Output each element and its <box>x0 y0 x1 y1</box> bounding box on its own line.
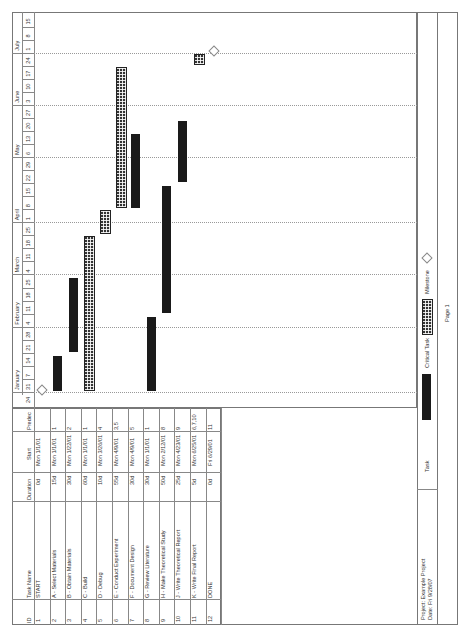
legend-date: Date: Fri 9/28/07 <box>427 578 434 620</box>
task-bar[interactable] <box>53 356 62 391</box>
row-id: 11 <box>191 616 198 622</box>
week-label: 1 <box>25 217 32 220</box>
week-label: 6 <box>25 152 32 155</box>
row-start: Mon 1/1/01 <box>51 438 58 466</box>
week-label: 21 <box>25 345 32 351</box>
month-label: February <box>14 302 21 324</box>
table-bottom <box>221 408 222 625</box>
row-start: Mon 2/12/01 <box>160 435 167 466</box>
row-duration: 25d <box>175 476 182 485</box>
header-id: ID <box>26 617 33 623</box>
row-id: 1 <box>35 619 42 622</box>
gantt-page: IDTask NameDurationStartPredec1START0dMo… <box>0 0 470 640</box>
week-label: 1 <box>25 48 32 51</box>
week-label: 22 <box>25 175 32 181</box>
legend-critical-swatch <box>422 299 433 335</box>
row-id: 4 <box>82 619 89 622</box>
row-start: Mon 4/9/01 <box>113 438 120 466</box>
week-divider <box>22 288 34 289</box>
month-label: June <box>14 91 21 103</box>
critical-task-bar[interactable] <box>116 67 127 209</box>
row-predecessors: 1 <box>144 427 151 430</box>
week-divider <box>22 196 34 197</box>
month-label: May <box>14 144 21 155</box>
legend-divider <box>417 489 438 490</box>
critical-task-bar[interactable] <box>100 210 111 234</box>
week-divider <box>22 261 34 262</box>
week-label: 28 <box>25 332 32 338</box>
row-duration: 30d <box>129 476 136 485</box>
month-label: January <box>14 370 21 390</box>
month-divider <box>12 105 34 106</box>
week-divider <box>22 235 34 236</box>
row-id: 7 <box>129 619 136 622</box>
week-divider <box>22 353 34 354</box>
month-label: March <box>14 257 21 273</box>
month-gridline <box>34 392 417 393</box>
timescale-bottom <box>34 12 35 408</box>
row-predecessors: 11 <box>207 424 214 430</box>
week-label: 11 <box>25 254 32 260</box>
header-task-name: Task Name <box>26 570 33 598</box>
week-label: 18 <box>25 240 32 246</box>
task-bar[interactable] <box>178 121 187 182</box>
row-start: Mon 4/9/01 <box>129 438 136 466</box>
legend-task-swatch <box>422 374 431 420</box>
week-label: 4 <box>25 322 32 325</box>
row-id: 5 <box>97 619 104 622</box>
week-label: 10 <box>25 84 32 90</box>
week-label: 3 <box>25 100 32 103</box>
task-bar[interactable] <box>162 186 171 313</box>
legend-project: Project: Example Project <box>420 559 427 620</box>
week-label: 20 <box>25 123 32 129</box>
legend-task-label: Task <box>424 460 431 472</box>
week-label: 31 <box>25 384 32 390</box>
week-label: 29 <box>25 162 32 168</box>
row-predecessors: 5 <box>129 427 136 430</box>
row-start: Mon 1/1/01 <box>144 438 151 466</box>
row-task-name: D - Debug <box>97 573 104 599</box>
row-start: Fri 6/29/01 <box>207 439 214 466</box>
row-start: Mon 1/1/01 <box>82 438 89 466</box>
row-predecessors: 2 <box>66 427 73 430</box>
month-divider <box>12 392 34 393</box>
row-id: 8 <box>144 619 151 622</box>
task-bar[interactable] <box>69 278 78 352</box>
month-divider <box>12 222 34 223</box>
week-divider <box>22 379 34 380</box>
critical-task-bar[interactable] <box>194 54 205 65</box>
legend-critical-label: Critical Task <box>424 338 431 368</box>
week-label: 25 <box>25 279 32 285</box>
row-predecessors: 4 <box>97 427 104 430</box>
week-label: 13 <box>25 136 32 142</box>
row-start: Mon 1/1/01 <box>35 438 42 466</box>
week-divider <box>22 314 34 315</box>
week-label: 24 <box>25 57 32 63</box>
month-gridline <box>34 157 417 158</box>
row-start: Mon 3/26/01 <box>97 435 104 466</box>
week-label: 4 <box>25 269 32 272</box>
week-divider <box>22 131 34 132</box>
row-task-name: J - Write Theoretical Report <box>175 530 182 598</box>
week-label: 8 <box>25 34 32 37</box>
row-task-name: A - Select Materials <box>51 550 58 598</box>
week-divider <box>22 301 34 302</box>
row-task-name: DONE <box>207 582 214 598</box>
task-bar[interactable] <box>131 134 140 208</box>
row-task-name: K - Write Final Report <box>191 544 198 598</box>
week-divider <box>22 40 34 41</box>
week-divider <box>22 79 34 80</box>
row-duration: 30d <box>66 476 73 485</box>
week-divider <box>22 340 34 341</box>
row-predecessors: 1 <box>82 427 89 430</box>
row-task-name: E - Conduct Experiment <box>113 539 120 598</box>
week-label: 17 <box>25 71 32 77</box>
row-task-name: B - Obtain Materials <box>66 549 73 598</box>
row-predecessors: 3,5 <box>113 422 120 430</box>
week-divider <box>22 183 34 184</box>
task-bar[interactable] <box>147 317 156 391</box>
week-divider <box>22 118 34 119</box>
critical-task-bar[interactable] <box>84 236 95 391</box>
month-gridline <box>34 53 417 54</box>
month-divider <box>12 53 34 54</box>
